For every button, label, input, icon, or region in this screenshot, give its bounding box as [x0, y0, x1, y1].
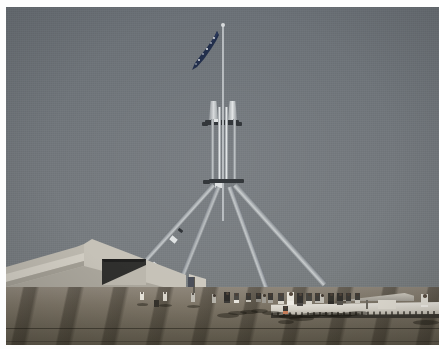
- mast-shaft-outer-right: [233, 119, 236, 181]
- person: [256, 293, 261, 310]
- visitor-group: [6, 265, 439, 345]
- person: [262, 294, 266, 307]
- mast-upper-joint-right-lug: [236, 122, 242, 126]
- mast-crown-left-cone: [209, 101, 218, 120]
- mast-crown-right-cone: [228, 101, 237, 120]
- mast-upper-joint-left-lug: [202, 122, 208, 126]
- person: [287, 292, 294, 316]
- person: [346, 293, 351, 313]
- mast-lower-joint-left-lug: [203, 180, 210, 184]
- person: [191, 293, 195, 306]
- mast-shaft-inner-right: [225, 107, 228, 181]
- person-child: [283, 306, 288, 321]
- person: [355, 293, 360, 312]
- person: [246, 293, 251, 311]
- person: [268, 293, 273, 312]
- mast-shaft-inner-left: [218, 107, 221, 181]
- person: [320, 294, 324, 307]
- flag-finial: [221, 23, 225, 27]
- person: [140, 292, 144, 304]
- mast-lower-joint: [209, 179, 237, 183]
- wall-opening-top-reveal: [102, 259, 146, 262]
- photo-frame: A large four-legged stainless steel flag…: [0, 0, 439, 349]
- person: [421, 294, 428, 322]
- person: [163, 292, 167, 305]
- person: [328, 293, 334, 314]
- person: [234, 293, 239, 312]
- mast-shaft-outer-left: [211, 119, 214, 181]
- person: [212, 294, 216, 307]
- australian-flag: [188, 29, 224, 75]
- rubbish-bin: [154, 300, 159, 307]
- flag-halyard-pole: [222, 25, 224, 103]
- mast-centre-pole: [222, 103, 224, 221]
- photograph: [6, 7, 439, 345]
